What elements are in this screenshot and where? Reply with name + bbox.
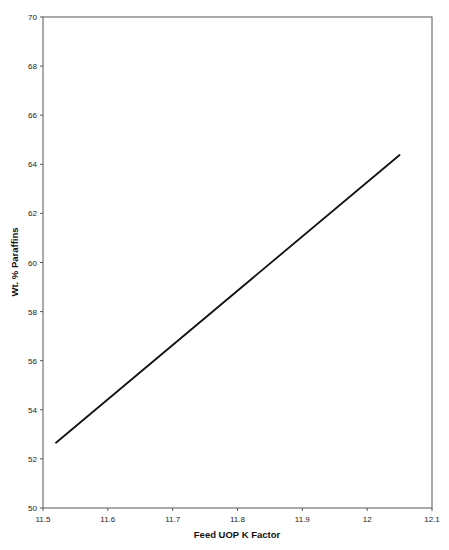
plot-border [43, 17, 432, 508]
data-series [56, 155, 400, 443]
y-axis: 5052545658606264666870 [28, 13, 43, 513]
x-tick-label: 12 [363, 515, 372, 524]
y-axis-title: Wt. % Paraffins [9, 227, 20, 296]
x-tick-label: 11.6 [100, 515, 116, 524]
y-tick-label: 52 [28, 455, 37, 464]
y-tick-label: 62 [28, 209, 37, 218]
x-tick-label: 11.8 [230, 515, 246, 524]
x-axis-title: Feed UOP K Factor [194, 529, 281, 540]
x-tick-label: 11.9 [295, 515, 311, 524]
y-tick-label: 70 [28, 13, 37, 22]
y-tick-label: 50 [28, 504, 37, 513]
y-tick-label: 56 [28, 357, 37, 366]
x-tick-label: 11.5 [36, 515, 52, 524]
y-tick-label: 60 [28, 259, 37, 268]
y-tick-label: 58 [28, 308, 37, 317]
x-tick-label: 12.1 [424, 515, 440, 524]
y-tick-label: 54 [28, 406, 37, 415]
y-tick-label: 64 [28, 160, 37, 169]
plot-area [43, 17, 432, 508]
x-axis: 11.511.611.711.811.91212.1 [36, 508, 441, 524]
series-line [56, 155, 400, 443]
y-tick-label: 66 [28, 111, 37, 120]
chart: 5052545658606264666870 11.511.611.711.81… [0, 0, 449, 550]
x-tick-label: 11.7 [165, 515, 181, 524]
y-tick-label: 68 [28, 62, 37, 71]
